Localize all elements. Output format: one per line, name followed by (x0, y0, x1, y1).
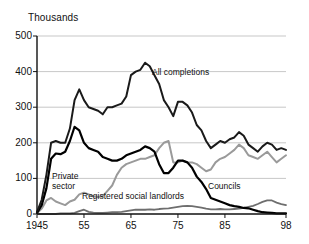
series-label: Privatesector (52, 172, 78, 191)
plot-area (0, 0, 309, 244)
series-label: Registered social landlords (82, 192, 184, 202)
series-label: Councils (208, 182, 241, 192)
housing-completions-chart: Thousands 0100200300400500 1945556575859… (0, 0, 309, 244)
series-label: All completions (152, 68, 209, 78)
series-label-line: sector (52, 182, 78, 192)
